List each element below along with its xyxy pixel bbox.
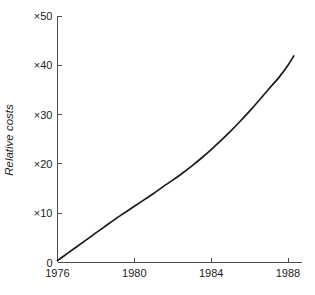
y-axis-tick-label: ×30 — [34, 109, 53, 121]
line-chart-plot: 0×10×20×30×40×50 1976198019841988 Relati… — [0, 0, 315, 295]
y-axis-ticks — [58, 16, 63, 213]
chart-figure: 0×10×20×30×40×50 1976198019841988 Relati… — [0, 0, 315, 295]
y-axis-tick-label: ×10 — [34, 207, 53, 219]
x-axis-tick-label: 1988 — [276, 267, 300, 279]
y-axis-tick-label: ×50 — [34, 10, 53, 22]
y-axis-tick-label: ×40 — [34, 59, 53, 71]
y-axis-title: Relative costs — [3, 104, 15, 176]
x-axis-ticks — [134, 258, 288, 263]
y-axis-tick-labels: 0×10×20×30×40×50 — [34, 10, 53, 269]
x-axis-tick-label: 1984 — [199, 267, 223, 279]
x-axis-tick-label: 1980 — [122, 267, 146, 279]
y-axis-tick-label: ×20 — [34, 158, 53, 170]
x-axis-tick-label: 1976 — [45, 267, 69, 279]
data-series-line — [58, 56, 294, 261]
x-axis-tick-labels: 1976198019841988 — [45, 267, 300, 279]
